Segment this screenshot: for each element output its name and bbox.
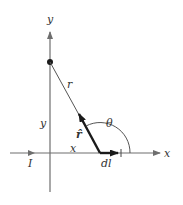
current-label: I bbox=[27, 157, 33, 170]
x-distance-label: x bbox=[70, 142, 77, 155]
y-distance-label: y bbox=[39, 117, 47, 130]
x-axis-label: x bbox=[164, 147, 171, 160]
r-label: r bbox=[67, 78, 73, 91]
r-hat-vector bbox=[79, 114, 100, 153]
y-axis-label: y bbox=[46, 13, 54, 26]
biot-savart-diagram: y x r y x θ r̂ dl I bbox=[0, 0, 183, 205]
r-hat-label: r̂ bbox=[76, 128, 83, 141]
dl-label: dl bbox=[101, 157, 112, 170]
theta-label: θ bbox=[106, 117, 113, 130]
current-arrow-icon bbox=[28, 150, 35, 156]
